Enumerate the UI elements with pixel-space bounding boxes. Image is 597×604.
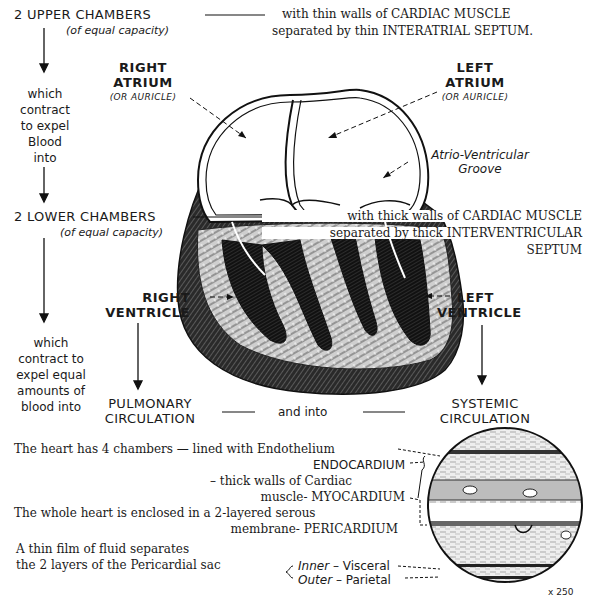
layers-line5: The whole heart is enclosed in a 2-layer… <box>14 507 316 519</box>
layers-line1: The heart has 4 chambers — lined with En… <box>14 443 335 455</box>
lower-chambers-title: 2 LOWER CHAMBERS <box>14 210 156 223</box>
upper-desc-line2: separated by thin INTERATRIAL SEPTUM. <box>272 25 533 37</box>
left-ventricle-label: LEFT VENTRICLE <box>437 290 522 320</box>
myocardium-label: muscle- MYOCARDIUM <box>200 491 405 503</box>
endocardium-label: ENDOCARDIUM <box>200 459 405 471</box>
av-groove-label: Atrio-Ventricular Groove <box>405 148 555 176</box>
right-ventricle-label: RIGHT VENTRICLE <box>90 290 190 320</box>
outer-parietal-label: Outer – Parietal <box>298 574 391 586</box>
left-atrium-label: LEFT ATRIUM (OR AURICLE) <box>430 60 520 105</box>
pulmonary-circulation-label: PULMONARY CIRCULATION <box>80 396 220 426</box>
layers-line7: A thin film of fluid separates <box>16 543 189 555</box>
right-atrium-label: RIGHT ATRIUM (OR AURICLE) <box>98 60 188 105</box>
pericardium-label: membrane- PERICARDIUM <box>180 523 398 535</box>
layers-line8: the 2 layers of the Pericardial sac <box>16 559 221 571</box>
lower-desc-line2: separated by thick INTERVENTRICULAR <box>262 227 582 239</box>
upper-chambers-title: 2 UPPER CHAMBERS <box>14 8 151 21</box>
lower-chambers-subtitle: (of equal capacity) <box>60 227 163 238</box>
inner-visceral-label: Inner – Visceral <box>298 560 390 572</box>
upper-chambers-subtitle: (of equal capacity) <box>66 25 169 36</box>
layers-line3: – thick walls of Cardiac <box>210 475 352 487</box>
lower-desc-line1: with thick walls of CARDIAC MUSCLE <box>262 210 582 222</box>
systemic-circulation-label: SYSTEMIC CIRCULATION <box>415 396 555 426</box>
and-into-label: and into <box>278 406 327 418</box>
magnification-label: x 250 <box>548 588 573 597</box>
micro-section <box>425 425 585 585</box>
upper-flow-text: which contract to expel Blood into <box>14 86 76 166</box>
upper-desc-line1: with thin walls of CARDIAC MUSCLE <box>282 8 510 20</box>
lower-desc-line3: SEPTUM <box>462 244 582 256</box>
